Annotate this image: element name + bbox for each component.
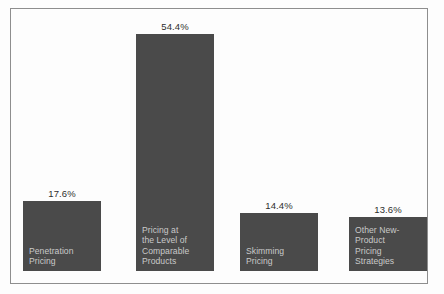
bar-category-label-line: Penetration — [29, 246, 97, 256]
bar-value-label: 17.6% — [23, 188, 101, 199]
bar-category-label-line: Pricing — [29, 256, 97, 266]
bar-category-label-line: Comparable — [142, 246, 210, 256]
bar-value-label: 54.4% — [136, 21, 214, 32]
bar-value-label: 13.6% — [349, 204, 427, 215]
bar-category-label-line: the Level of — [142, 235, 210, 245]
bar-group-skimming-pricing: 14.4% Skimming Pricing — [240, 213, 318, 271]
bar-group-penetration-pricing: 17.6% Penetration Pricing — [23, 201, 101, 271]
bar-category-label: Pricing at the Level of Comparable Produ… — [142, 225, 210, 266]
bar-category-label-line: Pricing — [246, 256, 314, 266]
bar-category-label: Skimming Pricing — [246, 246, 314, 266]
bar-group-comparable-products: 54.4% Pricing at the Level of Comparable… — [136, 34, 214, 271]
bar-category-label-line: Products — [142, 256, 210, 266]
bar-category-label-line: Product — [355, 235, 423, 245]
bar-category-label-line: Other New- — [355, 225, 423, 235]
bar-category-label-line: Skimming — [246, 246, 314, 256]
bar-rect[interactable]: Skimming Pricing — [240, 213, 318, 271]
bar-category-label-line: Pricing at — [142, 225, 210, 235]
plot-area: 17.6% Penetration Pricing 54.4% Pricing … — [11, 9, 429, 285]
bar-group-other-new-product-strategies: 13.6% Other New- Product Pricing Strateg… — [349, 217, 427, 271]
bar-category-label-line: Strategies — [355, 256, 423, 266]
bar-category-label-line: Pricing — [355, 246, 423, 256]
bar-category-label: Penetration Pricing — [29, 246, 97, 266]
bar-rect[interactable]: Pricing at the Level of Comparable Produ… — [136, 34, 214, 271]
bar-value-label: 14.4% — [240, 200, 318, 211]
bar-rect[interactable]: Penetration Pricing — [23, 201, 101, 271]
bar-chart: 17.6% Penetration Pricing 54.4% Pricing … — [0, 0, 444, 294]
bar-category-label: Other New- Product Pricing Strategies — [355, 225, 423, 266]
chart-frame: 17.6% Penetration Pricing 54.4% Pricing … — [10, 8, 428, 284]
bar-rect[interactable]: Other New- Product Pricing Strategies — [349, 217, 427, 271]
